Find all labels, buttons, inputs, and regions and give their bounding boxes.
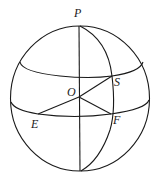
radius-of [79, 97, 111, 114]
radius-os [79, 76, 112, 97]
label-e: E [30, 117, 39, 131]
label-s: S [114, 75, 120, 89]
sphere-diagram: P O S E F [0, 0, 163, 180]
radius-oe [38, 97, 79, 114]
diagram-svg: P O S E F [0, 0, 163, 180]
parallel-circle-front [20, 62, 143, 78]
label-f: F [112, 113, 121, 127]
polar-axis [79, 26, 80, 171]
meridian-psf [80, 26, 114, 171]
label-o: O [67, 85, 76, 99]
label-p: P [73, 6, 82, 20]
